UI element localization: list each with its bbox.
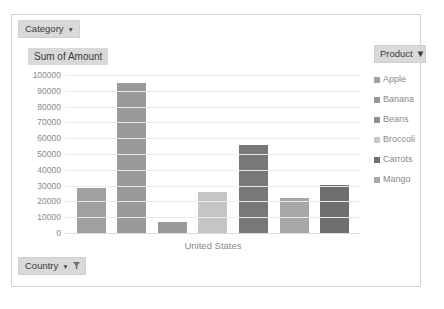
- chevron-down-icon[interactable]: ▼: [416, 48, 425, 60]
- bar[interactable]: [77, 188, 106, 233]
- funnel-icon[interactable]: [73, 262, 80, 270]
- bar[interactable]: [280, 198, 309, 233]
- bar[interactable]: [239, 145, 268, 233]
- country-field-label: Country: [25, 260, 58, 272]
- legend-item-label: Carrots: [383, 154, 413, 165]
- category-field-button[interactable]: Category ▼: [18, 20, 80, 38]
- chevron-down-icon[interactable]: ▼: [68, 27, 74, 33]
- gridline: [65, 233, 361, 234]
- legend-swatch-icon: [374, 137, 380, 143]
- country-field-button[interactable]: Country ▼: [18, 257, 86, 275]
- legend-item-label: Beans: [383, 114, 409, 125]
- x-axis-category-label: United States: [65, 240, 361, 252]
- y-axis-tick-label: 0: [56, 229, 61, 238]
- y-axis-tick-label: 100000: [33, 71, 61, 80]
- bar[interactable]: [320, 185, 349, 233]
- chevron-down-icon[interactable]: ▼: [62, 264, 68, 270]
- y-axis-tick-label: 10000: [37, 213, 61, 222]
- gridline: [65, 154, 361, 155]
- y-axis: 1000009000080000700006000050000400003000…: [15, 75, 63, 234]
- value-field-title[interactable]: Sum of Amount: [28, 48, 108, 65]
- bar[interactable]: [198, 192, 227, 233]
- gridline: [65, 107, 361, 108]
- legend-swatch-icon: [374, 117, 380, 123]
- product-field-button[interactable]: Product ▼: [374, 45, 426, 63]
- bar[interactable]: [158, 222, 187, 233]
- legend-swatch-icon: [374, 177, 380, 183]
- gridline: [65, 201, 361, 202]
- legend-item[interactable]: Apple: [374, 74, 420, 85]
- category-field-label: Category: [25, 23, 64, 35]
- y-axis-tick-label: 20000: [37, 197, 61, 206]
- legend-item-label: Mango: [383, 174, 411, 185]
- legend-item[interactable]: Broccoli: [374, 134, 420, 145]
- plot-area: 1000009000080000700006000050000400003000…: [15, 75, 365, 265]
- y-axis-tick-label: 80000: [37, 102, 61, 111]
- gridline: [65, 138, 361, 139]
- legend-item-label: Banana: [383, 94, 414, 105]
- y-axis-tick-label: 40000: [37, 165, 61, 174]
- y-axis-tick-label: 30000: [37, 181, 61, 190]
- legend-swatch-icon: [374, 77, 380, 83]
- legend-item[interactable]: Carrots: [374, 154, 420, 165]
- legend-item-label: Broccoli: [383, 134, 415, 145]
- legend-item[interactable]: Beans: [374, 114, 420, 125]
- gridline: [65, 217, 361, 218]
- legend-item[interactable]: Banana: [374, 94, 420, 105]
- legend-swatch-icon: [374, 157, 380, 163]
- gridline: [65, 186, 361, 187]
- gridline: [65, 91, 361, 92]
- legend-item-label: Apple: [383, 74, 406, 85]
- gridlines: [65, 75, 361, 234]
- gridline: [65, 170, 361, 171]
- gridline: [65, 122, 361, 123]
- bar[interactable]: [117, 83, 146, 233]
- legend: Product ▼ AppleBananaBeansBroccoliCarrot…: [374, 45, 420, 185]
- legend-swatch-icon: [374, 97, 380, 103]
- gridline: [65, 75, 361, 76]
- pivot-chart-container: Category ▼ Sum of Amount 100000900008000…: [11, 14, 421, 287]
- y-axis-tick-label: 50000: [37, 150, 61, 159]
- legend-items: AppleBananaBeansBroccoliCarrotsMango: [374, 74, 420, 185]
- legend-field-label: Product: [380, 48, 413, 60]
- y-axis-tick-label: 60000: [37, 134, 61, 143]
- legend-item[interactable]: Mango: [374, 174, 420, 185]
- y-axis-tick-label: 70000: [37, 118, 61, 127]
- y-axis-tick-label: 90000: [37, 86, 61, 95]
